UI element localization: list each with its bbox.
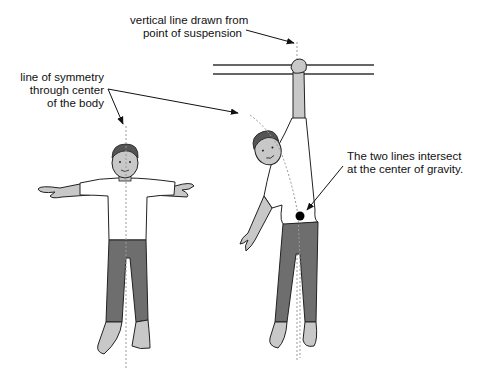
symmetry-label-line3: of the body (10, 97, 104, 110)
symmetry-label-line1: line of symmetry (10, 71, 104, 84)
vertical-line-leader-arrow (246, 30, 294, 43)
vertical-line-label: vertical line drawn from point of suspen… (130, 14, 242, 40)
symmetry-label-line2: through center (10, 84, 104, 97)
center-of-gravity-dot (296, 212, 305, 221)
symmetry-leader-arrow-left (108, 89, 123, 124)
hanging-figure (240, 59, 318, 348)
vertical-line-label-line1: vertical line drawn from (130, 14, 242, 27)
symmetry-leader-arrow-right (108, 89, 238, 113)
intersection-label-line2: at the center of gravity. (347, 163, 463, 176)
intersection-label: The two lines intersect at the center of… (347, 150, 463, 176)
standing-figure (38, 144, 194, 354)
intersection-label-line1: The two lines intersect (347, 150, 463, 163)
symmetry-line-label: line of symmetry through center of the b… (10, 71, 104, 110)
vertical-line-label-line2: point of suspension (130, 27, 242, 40)
center-of-gravity-diagram: vertical line drawn from point of suspen… (0, 0, 478, 378)
